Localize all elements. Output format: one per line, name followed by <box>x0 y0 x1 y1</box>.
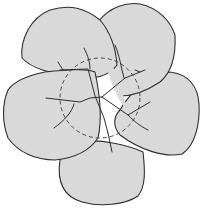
knot-diagram-svg <box>0 0 203 214</box>
knot-diagram <box>0 0 203 214</box>
petal-left <box>4 70 101 160</box>
